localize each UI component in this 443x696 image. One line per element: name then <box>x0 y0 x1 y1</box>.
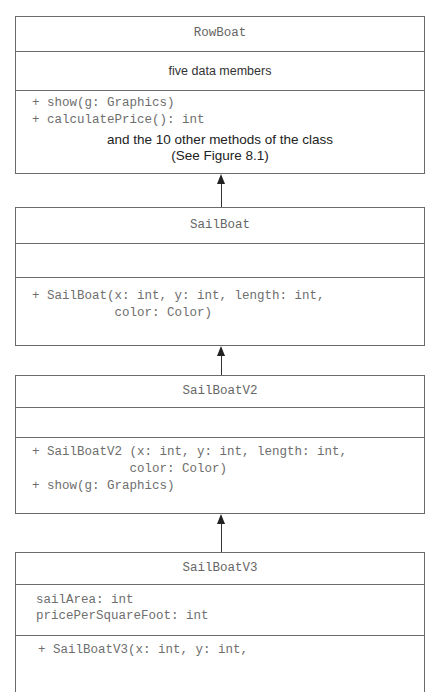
class-sailboatv2: SailBoatV2 + SailBoatV2 (x: int, y: int,… <box>15 375 425 514</box>
method: + calculatePrice(): int <box>32 112 205 129</box>
methods-section: + SailBoatV2 (x: int, y: int, length: in… <box>16 437 424 515</box>
attributes-section: sailArea: int pricePerSquareFoot: int <box>16 584 424 636</box>
method: + show(g: Graphics) <box>32 478 175 495</box>
methods-section: + SailBoatV3(x: int, y: int, <box>16 635 424 696</box>
attributes-section <box>16 243 424 278</box>
class-sailboat: SailBoat + SailBoat(x: int, y: int, leng… <box>15 207 425 346</box>
class-name: SailBoat <box>16 218 424 232</box>
method: + show(g: Graphics) <box>32 95 175 112</box>
method: + SailBoat(x: int, y: int, length: int, <box>32 288 325 305</box>
inheritance-arrow-head-icon <box>217 346 225 356</box>
class-name: SailBoatV3 <box>16 561 424 575</box>
methods-section: + show(g: Graphics) + calculatePrice(): … <box>16 90 424 175</box>
attribute: sailArea: int <box>36 592 134 609</box>
inheritance-arrow-line <box>221 520 222 553</box>
inheritance-arrow-head-icon <box>217 514 225 524</box>
inheritance-arrow-line <box>221 180 222 208</box>
attributes-section <box>16 407 424 438</box>
method: + SailBoatV2 (x: int, y: int, length: in… <box>32 444 347 461</box>
attribute: pricePerSquareFoot: int <box>36 608 209 625</box>
class-name-section: SailBoatV3 <box>16 553 424 584</box>
methods-note: (See Figure 8.1) <box>16 148 424 165</box>
method-continuation: color: Color) <box>32 461 227 478</box>
methods-note: and the 10 other methods of the class <box>16 132 424 149</box>
class-name-section: SailBoat <box>16 208 424 243</box>
class-name: SailBoatV2 <box>16 384 424 398</box>
class-rowboat: RowBoat five data members + show(g: Grap… <box>15 16 425 174</box>
class-sailboatv3: SailBoatV3 sailArea: int pricePerSquareF… <box>15 552 425 692</box>
attributes-note: five data members <box>16 63 424 80</box>
attributes-section: five data members <box>16 51 424 91</box>
class-name: RowBoat <box>16 26 424 40</box>
class-name-section: RowBoat <box>16 17 424 51</box>
methods-section: + SailBoat(x: int, y: int, length: int, … <box>16 277 424 347</box>
inheritance-arrow-head-icon <box>217 174 225 184</box>
method: + SailBoatV3(x: int, y: int, <box>38 642 248 659</box>
class-name-section: SailBoatV2 <box>16 376 424 407</box>
method-continuation: color: Color) <box>32 305 212 322</box>
